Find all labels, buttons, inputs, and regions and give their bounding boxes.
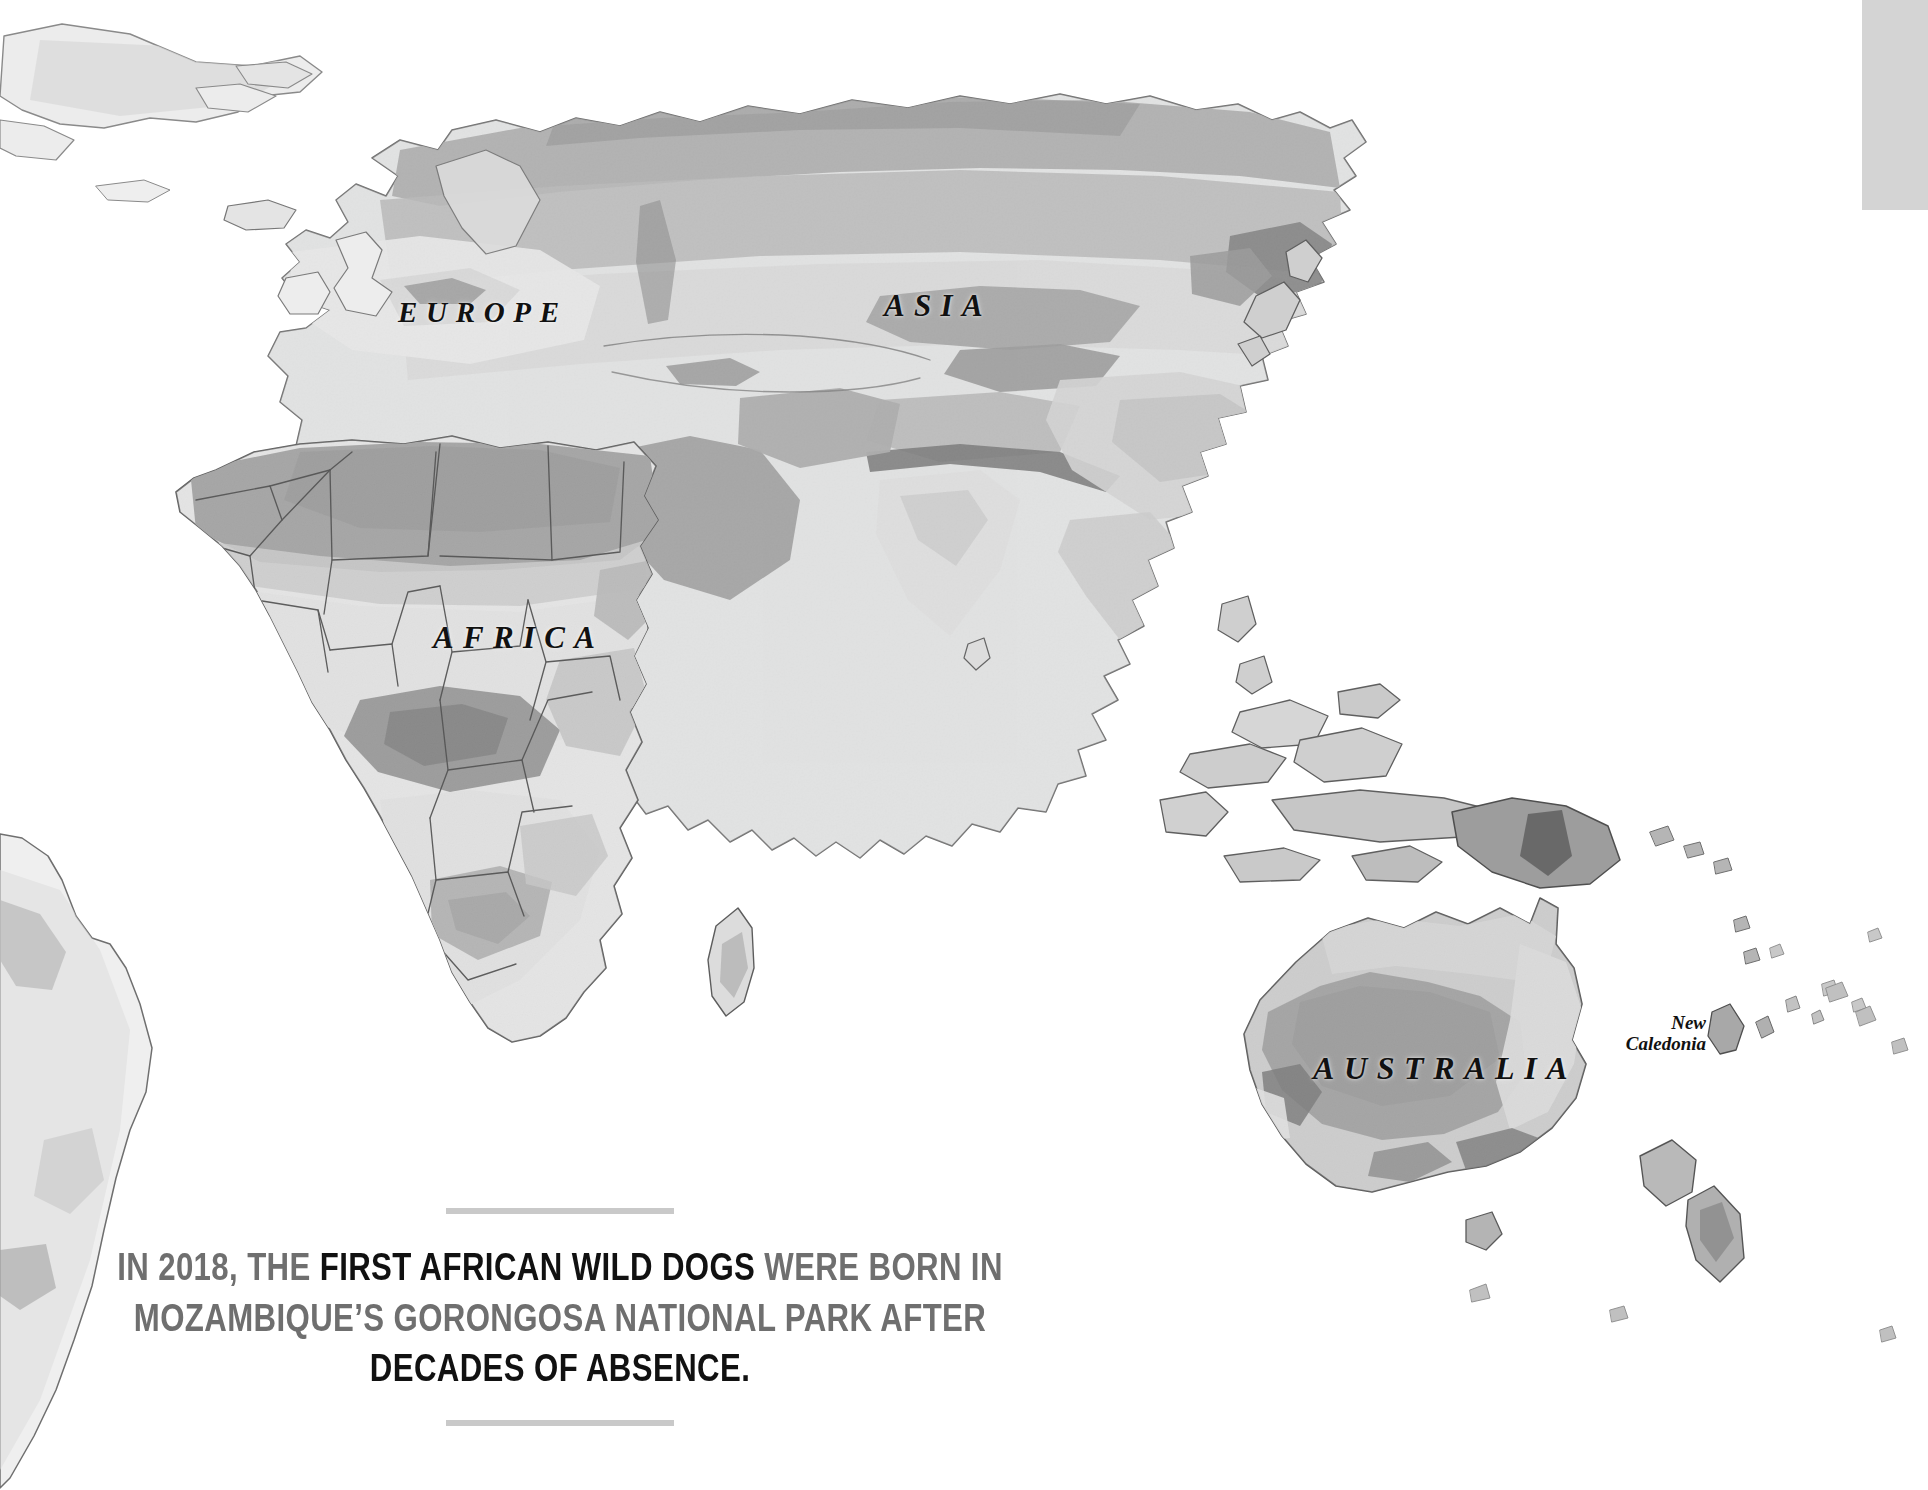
map-label-new-caledonia: New Caledonia: [1586, 1012, 1706, 1055]
caption-rule-top: [446, 1208, 674, 1214]
caption-line1-pre: IN 2018, THE: [117, 1245, 320, 1288]
caption-text: IN 2018, THE FIRST AFRICAN WILD DOGS WER…: [112, 1242, 1008, 1394]
page-root: EUROPE ASIA AFRICA AUSTRALIA New Caledon…: [0, 0, 1928, 1490]
caption-block: IN 2018, THE FIRST AFRICAN WILD DOGS WER…: [0, 1208, 1120, 1426]
caption-highlight: FIRST AFRICAN WILD DOGS: [320, 1245, 756, 1288]
caption-rule-bottom: [446, 1420, 674, 1426]
new-caledonia-line1: New: [1586, 1012, 1706, 1033]
caption-line2: MOZAMBIQUE’S GORONGOSA NATIONAL PARK AFT…: [134, 1296, 986, 1339]
caption-line3: DECADES OF ABSENCE.: [370, 1346, 750, 1389]
caption-line1-post: WERE BORN IN: [755, 1245, 1003, 1288]
corner-gray-panel: [1862, 0, 1928, 210]
new-caledonia-line2: Caledonia: [1586, 1033, 1706, 1054]
